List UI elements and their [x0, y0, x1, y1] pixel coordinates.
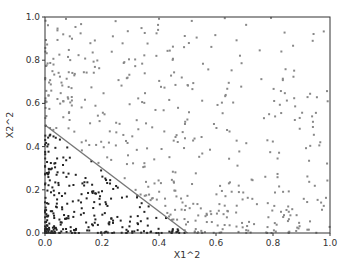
inside-point — [97, 224, 99, 226]
outside-point — [173, 182, 175, 184]
outside-point — [49, 62, 51, 64]
outside-point — [313, 134, 315, 136]
outside-point — [164, 198, 166, 200]
outside-point — [231, 69, 233, 71]
outside-point — [175, 195, 177, 197]
outside-point — [147, 43, 149, 45]
outside-point — [207, 68, 209, 70]
inside-point — [81, 193, 83, 195]
outside-point — [53, 74, 55, 76]
inside-point — [155, 217, 157, 219]
outside-point — [106, 156, 108, 158]
outside-point — [247, 197, 249, 199]
outside-point — [315, 112, 317, 114]
outside-point — [242, 198, 244, 200]
outside-point — [305, 147, 307, 149]
outside-point — [285, 68, 287, 70]
inside-point — [49, 179, 51, 181]
outside-point — [194, 138, 196, 140]
outside-point — [256, 203, 258, 205]
outside-point — [131, 135, 133, 137]
outside-point — [195, 172, 197, 174]
outside-point — [160, 86, 162, 88]
outside-point — [299, 117, 301, 119]
outside-point — [327, 100, 329, 102]
outside-point — [228, 82, 230, 84]
outside-point — [301, 112, 303, 114]
inside-point — [121, 226, 123, 228]
outside-point — [210, 46, 212, 48]
outside-point — [163, 130, 165, 132]
outside-point — [127, 30, 129, 32]
inside-point — [64, 218, 66, 220]
inside-point — [133, 230, 135, 232]
outside-point — [177, 141, 179, 143]
outside-point — [325, 197, 327, 199]
outside-point — [195, 220, 197, 222]
inside-point — [147, 225, 149, 227]
outside-point — [68, 49, 70, 51]
outside-point — [137, 97, 139, 99]
outside-point — [134, 58, 136, 60]
outside-point — [62, 33, 64, 35]
outside-point — [268, 113, 270, 115]
outside-point — [276, 224, 278, 226]
outside-point — [89, 122, 91, 124]
outside-point — [118, 79, 120, 81]
inside-point — [172, 229, 174, 231]
x-tick-label: 1.0 — [323, 238, 338, 248]
inside-point — [77, 199, 79, 201]
inside-point — [117, 187, 119, 189]
inside-point — [46, 224, 48, 226]
outside-point — [53, 64, 55, 66]
outside-point — [185, 223, 187, 225]
inside-point — [120, 220, 122, 222]
outside-point — [280, 90, 282, 92]
inside-point — [47, 176, 49, 178]
outside-point — [121, 85, 123, 87]
outside-point — [246, 225, 248, 227]
outside-point — [188, 111, 190, 113]
outside-point — [154, 109, 156, 111]
outside-point — [309, 220, 311, 222]
outside-point — [137, 128, 139, 130]
outside-point — [145, 181, 147, 183]
outside-point — [311, 115, 313, 117]
outside-point — [59, 76, 61, 78]
inside-point — [88, 226, 90, 228]
inside-point — [109, 179, 111, 181]
outside-point — [312, 121, 314, 123]
outside-point — [321, 209, 323, 211]
inside-point — [55, 137, 57, 139]
outside-point — [223, 213, 225, 215]
inside-point — [110, 217, 112, 219]
outside-point — [235, 226, 237, 228]
outside-point — [219, 185, 221, 187]
outside-point — [56, 29, 58, 31]
outside-point — [60, 92, 62, 94]
inside-point — [47, 143, 49, 145]
inside-point — [148, 205, 150, 207]
inside-point — [137, 229, 139, 231]
outside-point — [293, 70, 295, 72]
outside-point — [192, 82, 194, 84]
outside-point — [127, 77, 129, 79]
outside-point — [95, 144, 97, 146]
outside-point — [251, 198, 253, 200]
outside-point — [59, 103, 61, 105]
plot-frame — [45, 17, 330, 233]
outside-point — [129, 103, 131, 105]
outside-point — [108, 142, 110, 144]
outside-point — [267, 216, 269, 218]
outside-point — [287, 220, 289, 222]
outside-point — [93, 72, 95, 74]
inside-point — [56, 157, 58, 159]
outside-point — [239, 55, 241, 57]
outside-point — [247, 230, 249, 232]
outside-point — [186, 195, 188, 197]
inside-point — [48, 151, 50, 153]
outside-point — [156, 199, 158, 201]
outside-point — [109, 130, 111, 132]
outside-point — [71, 87, 73, 89]
outside-point — [273, 205, 275, 207]
